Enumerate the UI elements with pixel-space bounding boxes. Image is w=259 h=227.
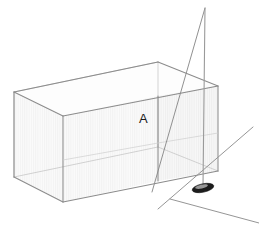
ground-line-front	[170, 199, 259, 223]
figure-canvas: A	[0, 0, 259, 227]
geometry-figure: A	[0, 0, 259, 227]
point-a-label: A	[139, 111, 148, 126]
box-face-front-right	[158, 86, 218, 181]
box-faces	[14, 62, 218, 202]
